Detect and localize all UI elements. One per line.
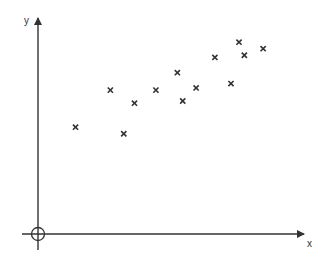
data-point-x-marker [228,81,233,86]
data-point-x-marker [175,70,180,75]
data-point-x-marker [236,40,241,45]
data-point-x-marker [121,131,126,136]
data-point-x-marker [153,88,158,93]
data-point-x-marker [73,125,78,130]
data-point-x-marker [261,46,266,51]
scatter-plot: y x [0,0,334,266]
data-point-x-marker [242,53,247,58]
x-axis-label: x [307,238,312,249]
data-point-x-marker [212,55,217,60]
y-axis-label: y [24,15,29,26]
data-points [73,40,266,137]
data-point-x-marker [194,85,199,90]
data-point-x-marker [180,98,185,103]
data-point-x-marker [108,88,113,93]
data-point-x-marker [132,101,137,106]
